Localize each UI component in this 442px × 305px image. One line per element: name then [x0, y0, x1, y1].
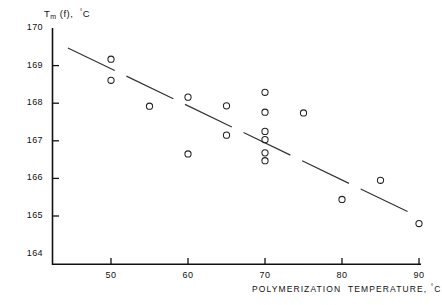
y-axis-title-variable: (f),: [60, 8, 74, 19]
x-tick-label: 70: [252, 270, 278, 280]
data-point-marker: [223, 103, 229, 109]
data-point-marker: [146, 103, 152, 109]
data-points: [108, 56, 422, 227]
y-tick-label: 170: [17, 22, 43, 32]
data-point-marker: [108, 56, 114, 62]
trend-line: [68, 48, 415, 215]
trend-line-dashed: [68, 48, 415, 215]
y-tick-label: 169: [17, 60, 43, 70]
data-point-marker: [185, 94, 191, 100]
x-axis-ticks: [111, 258, 419, 264]
data-point-marker: [262, 137, 268, 143]
data-point-marker: [223, 132, 229, 138]
y-tick-label: 168: [17, 97, 43, 107]
y-tick-label: 164: [17, 248, 43, 258]
data-point-marker: [262, 158, 268, 164]
x-axis-title: POLYMERIZATION TEMPERATURE, °C: [252, 283, 442, 294]
data-point-marker: [262, 89, 268, 95]
x-tick-label: 90: [406, 270, 432, 280]
data-point-marker: [262, 150, 268, 156]
y-axis-unit-letter: C: [83, 8, 90, 19]
x-axis-unit-letter: C: [434, 284, 441, 294]
y-tick-label: 165: [17, 210, 43, 220]
x-axis-title-text: POLYMERIZATION TEMPERATURE,: [252, 284, 431, 294]
data-point-marker: [262, 128, 268, 134]
x-tick-label: 50: [98, 270, 124, 280]
axes: [52, 28, 421, 265]
y-tick-label: 167: [17, 135, 43, 145]
y-tick-label: 166: [17, 172, 43, 182]
data-point-marker: [416, 220, 422, 226]
data-point-marker: [300, 110, 306, 116]
x-tick-label: 80: [329, 270, 355, 280]
data-point-marker: [185, 151, 191, 157]
data-point-marker: [108, 77, 114, 83]
data-point-marker: [377, 177, 383, 183]
data-point-marker: [339, 196, 345, 202]
x-tick-label: 60: [175, 270, 201, 280]
data-point-marker: [262, 109, 268, 115]
y-axis-title: Tm (f), °C: [44, 8, 90, 20]
